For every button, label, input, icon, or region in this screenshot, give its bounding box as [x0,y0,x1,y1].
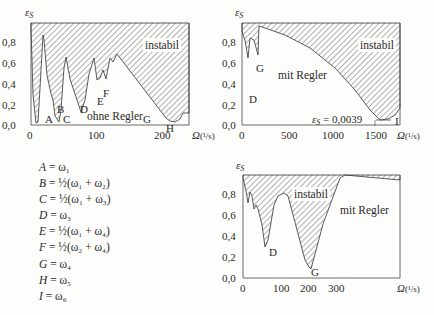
x-axis-label: Ω(¹/s) [192,129,215,141]
xtick-100: 100 [273,282,290,294]
frequency-legend: A = ω₁ B = ½(ω₁ + ω₂) C = ½(ω₁ + ω₃) D =… [39,159,111,304]
xtick-0: 0 [239,129,245,141]
xtick-1500: 1500 [365,129,388,141]
marker-G: G [256,62,264,74]
legend-row-F: F = ½(ω₂ + ω₄) [39,239,111,255]
marker-C: C [63,113,70,125]
xtick-200: 200 [300,282,317,294]
xtick-0: 0 [27,129,33,141]
marker-G: G [311,266,319,278]
ytick-02: 0,2 [222,99,236,111]
marker-G: G [143,113,151,125]
ytick-02: 0,2 [2,99,16,111]
legend-row-G: G = ω₄ [39,256,111,272]
chart-mit-regler: 0,0 0,2 0,4 0,6 0,8 εS 0 500 1000 1500 Ω… [222,6,420,141]
label-mit-regler: mit Regler [278,69,327,82]
eps-value-annotation: εS = 0,0039 [312,113,363,127]
ytick-04: 0,4 [222,78,236,90]
ytick-06: 0,6 [2,57,16,69]
ytick-06: 0,6 [222,57,236,69]
y-axis-label: εS [235,6,243,20]
ytick-0: 0,0 [222,119,236,131]
legend-row-H: H = ω₅ [39,272,111,288]
ytick-0: 0,0 [2,119,16,131]
label-ohne-regler: ohne Regler [87,110,143,123]
marker-H: H [166,122,174,134]
legend-row-C: C = ½(ω₁ + ω₃) [39,191,111,207]
x-axis-label: Ω(¹/s) [397,282,420,294]
marker-I: I [395,115,399,127]
xtick-100: 100 [88,129,105,141]
chart-mit-regler-detail: 0,0 0,2 0,4 0,6 0,8 εS 0 100 200 300 Ω(¹… [222,159,420,294]
ytick-04: 0,4 [222,230,236,242]
label-mit-regler: mit Regler [340,204,389,217]
y-axis-label: εS [236,159,244,173]
marker-F: F [103,87,109,99]
legend-row-E: E = ½(ω₁ + ω₄) [39,223,111,239]
legend-row-I: I = ω₆ [39,288,111,304]
marker-D: D [80,103,88,115]
chart-ohne-regler: 0,0 0,2 0,4 0,6 0,8 εS 0 100 200 Ω(¹/s) … [2,6,215,141]
ytick-04: 0,4 [2,78,16,90]
label-instabil: instabil [360,39,394,51]
ytick-02: 0,2 [222,251,236,263]
x-axis-label: Ω(¹/s) [397,129,420,141]
ytick-08: 0,8 [222,188,236,200]
ytick-0: 0,0 [222,272,236,284]
marker-D: D [249,93,257,105]
marker-D: D [269,246,277,258]
xtick-500: 500 [281,129,298,141]
legend-row-A: A = ω₁ [39,159,111,175]
legend-row-B: B = ½(ω₁ + ω₂) [39,175,111,191]
ytick-08: 0,8 [222,36,236,48]
ytick-08: 0,8 [2,36,16,48]
marker-A: A [45,113,53,125]
xtick-1000: 1000 [322,129,345,141]
xtick-300: 300 [328,282,345,294]
y-axis-label: εS [25,6,33,20]
ytick-06: 0,6 [222,209,236,221]
label-instabil: instabil [294,188,328,200]
xtick-0: 0 [240,282,246,294]
legend-row-D: D = ω₃ [39,207,111,223]
label-instabil: instabil [145,39,179,51]
